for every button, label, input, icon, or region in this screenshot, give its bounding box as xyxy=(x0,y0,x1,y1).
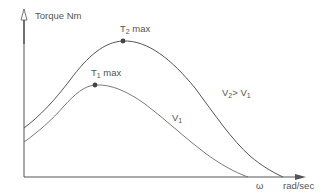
v2-gt-mid: > V xyxy=(232,87,247,98)
y-axis-arrow-icon xyxy=(21,9,27,20)
t1-max-label: T1 max xyxy=(91,68,121,79)
v1-sub-b: 1 xyxy=(247,92,251,99)
t2-max-rest: max xyxy=(130,23,151,34)
x-axis-unit: rad/sec xyxy=(283,181,314,191)
y-axis-label: Torque Nm xyxy=(35,11,81,21)
t1-max-rest: max xyxy=(101,67,122,78)
curve-v2 xyxy=(24,41,283,177)
v2-gt-v1-label: V2> V1 xyxy=(222,88,251,99)
v1-label: V1 xyxy=(172,113,182,124)
t1-max-point xyxy=(93,83,98,88)
x-axis-symbol: ω xyxy=(256,181,263,191)
torque-speed-chart xyxy=(0,0,330,194)
v1-sub: 1 xyxy=(178,117,182,124)
t2-max-point xyxy=(121,39,126,44)
curve-v1 xyxy=(24,85,248,177)
t2-max-label: T2 max xyxy=(120,24,150,35)
